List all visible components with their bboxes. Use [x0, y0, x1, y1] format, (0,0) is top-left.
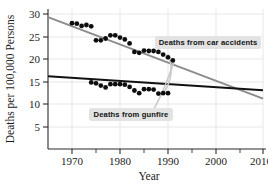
data-point [127, 85, 132, 90]
data-point [84, 23, 89, 28]
gunfire-annotation-text: Deaths from gunfire [94, 110, 169, 119]
chart-container: 30 25 20 15 10 5 1970 1980 1990 2000 201… [0, 0, 268, 184]
x-tick-label-2010: 2010 [250, 155, 268, 167]
data-point [118, 82, 123, 87]
x-axis-title: Year [138, 170, 159, 182]
data-point [137, 91, 142, 96]
data-point [127, 41, 132, 46]
data-point [161, 52, 166, 57]
y-tick-label-15: 15 [29, 76, 41, 88]
data-point [142, 48, 147, 53]
y-tick-label-30: 30 [29, 8, 41, 20]
data-point [89, 24, 94, 29]
data-point [94, 38, 99, 43]
data-point [156, 91, 161, 96]
data-point [108, 33, 113, 38]
data-point [170, 58, 175, 63]
data-point [98, 38, 103, 43]
x-tick-label-1990: 1990 [157, 155, 180, 167]
data-point [122, 37, 127, 42]
data-point [166, 55, 171, 60]
data-point [113, 33, 118, 38]
y-tick-label-10: 10 [29, 98, 41, 110]
y-tick-label-20: 20 [29, 53, 41, 65]
data-point [132, 88, 137, 93]
data-point [137, 50, 142, 55]
data-point [151, 49, 156, 54]
data-point [146, 87, 151, 92]
data-point [70, 21, 75, 26]
data-point [118, 35, 123, 40]
y-axis-title: Deaths per 100,000 Persons [4, 14, 17, 143]
x-tick-label-2000: 2000 [205, 155, 228, 167]
data-point [89, 80, 94, 85]
data-point [151, 87, 156, 92]
data-point [113, 82, 118, 87]
data-point [156, 50, 161, 55]
gunfire-annotation: Deaths from gunfire [89, 108, 173, 121]
data-point [166, 91, 171, 96]
data-point [94, 81, 99, 86]
deaths-trend-chart: 30 25 20 15 10 5 1970 1980 1990 2000 201… [0, 0, 268, 184]
y-tick-label-5: 5 [35, 121, 41, 133]
data-point [79, 24, 84, 29]
data-point [98, 83, 103, 88]
data-point [74, 21, 79, 26]
data-point [142, 87, 147, 92]
x-tick-label-1970: 1970 [61, 155, 84, 167]
data-point [108, 82, 113, 87]
car-accidents-annotation-text: Deaths from car accidents [159, 38, 258, 47]
data-point [103, 85, 108, 90]
data-point [103, 36, 108, 41]
data-point [146, 49, 151, 54]
data-point [161, 91, 166, 96]
data-point [122, 82, 127, 87]
car-accidents-annotation: Deaths from car accidents [155, 36, 261, 49]
data-point [132, 50, 137, 55]
y-tick-label-25: 25 [29, 31, 41, 43]
x-tick-label-1980: 1980 [109, 155, 132, 167]
